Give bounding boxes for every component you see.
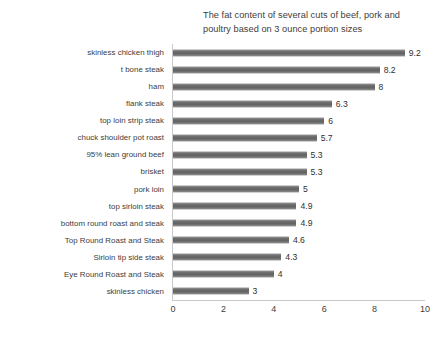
category-label-row: top sirloin steak [0,198,168,215]
x-axis-tick-label: 6 [322,304,327,314]
bar [173,100,332,107]
bar-value-label: 4.9 [300,201,312,211]
x-axis-line [172,300,425,301]
bar [173,220,296,227]
category-label: Sirloin tip side steak [93,253,164,262]
bar-row: 4.9 [173,198,425,215]
bar-value-label: 4.6 [293,235,305,245]
bar-row: 5.7 [173,129,425,146]
bar-value-label: 8.2 [384,65,396,75]
category-label: skinless chicken [107,287,164,296]
bar-value-label: 3 [253,286,258,296]
category-label: t bone steak [121,65,164,74]
bar-row: 5 [173,181,425,198]
bar-value-label: 6.3 [336,99,348,109]
bar-value-label: 6 [328,116,333,126]
x-axis-tick-label: 4 [271,304,276,314]
bar-value-label: 5.3 [311,150,323,160]
bar-value-label: 4.9 [300,218,312,228]
x-axis-tick-label: 0 [170,304,175,314]
category-label-row: Eye Round Roast and Steak [0,266,168,283]
category-label: top sirloin steak [109,202,164,211]
bar-row: 5.3 [173,146,425,163]
bar [173,271,274,278]
category-label: bottom round roast and steak [61,219,164,228]
bar-value-label: 4.3 [285,252,297,262]
bar-value-label: 8 [379,82,384,92]
bar [173,83,375,90]
category-label-row: chuck shoulder pot roast [0,129,168,146]
x-axis-tick-label: 10 [420,304,430,314]
category-label: flank steak [126,99,164,108]
chart-title-line-2: poultry based on 3 ounce portion sizes [203,23,435,37]
bar [173,117,324,124]
category-label: skinless chicken thigh [87,48,164,57]
bar-row: 8.2 [173,61,425,78]
category-label: Eye Round Roast and Steak [64,270,164,279]
bar-series: 9.28.286.365.75.35.354.94.94.64.343 [173,44,425,300]
bar-value-label: 5.3 [311,167,323,177]
bar-row: 4.3 [173,249,425,266]
category-label-row: 95% lean ground beef [0,146,168,163]
category-label: 95% lean ground beef [86,150,164,159]
chart-title: The fat content of several cuts of beef,… [203,9,435,36]
chart-title-line-1: The fat content of several cuts of beef,… [203,9,435,23]
bar-value-label: 9.2 [409,48,421,58]
bar-value-label: 4 [278,269,283,279]
bar-row: 9.2 [173,44,425,61]
bar-row: 8 [173,78,425,95]
category-label-row: skinless chicken thigh [0,44,168,61]
bar-value-label: 5.7 [321,133,333,143]
category-label: pork loin [134,185,164,194]
category-label: chuck shoulder pot roast [78,133,164,142]
bar [173,168,307,175]
x-axis-tick-label: 8 [372,304,377,314]
category-label: brisket [141,167,164,176]
bar-chart: The fat content of several cuts of beef,… [0,0,447,337]
category-label-row: brisket [0,163,168,180]
category-label-row: Sirloin tip side steak [0,249,168,266]
category-label-row: Top Round Roast and Steak [0,232,168,249]
bar [173,49,405,56]
bar-row: 4.6 [173,232,425,249]
category-label: Top Round Roast and Steak [65,236,164,245]
category-label: ham [149,82,164,91]
bar-row: 6.3 [173,95,425,112]
category-label-row: ham [0,78,168,95]
bar-row: 5.3 [173,163,425,180]
category-label-row: skinless chicken [0,283,168,300]
category-label-row: top loin strip steak [0,112,168,129]
category-label-row: pork loin [0,181,168,198]
category-axis-labels: skinless chicken thight bone steakhamfla… [0,44,168,300]
bar [173,66,380,73]
bar-row: 4.9 [173,215,425,232]
bar-value-label: 5 [303,184,308,194]
category-label-row: t bone steak [0,61,168,78]
bar [173,288,249,295]
plot-area: 9.28.286.365.75.35.354.94.94.64.343 [172,44,425,301]
category-label-row: bottom round roast and steak [0,215,168,232]
bar [173,134,317,141]
x-axis-tick-label: 2 [221,304,226,314]
bar-row: 6 [173,112,425,129]
bar [173,203,296,210]
bar [173,151,307,158]
bar [173,237,289,244]
bar-row: 3 [173,283,425,300]
bar [173,254,281,261]
category-label-row: flank steak [0,95,168,112]
x-axis-tick-labels: 0246810 [172,304,425,324]
bar-row: 4 [173,266,425,283]
category-label: top loin strip steak [100,116,164,125]
bar [173,186,299,193]
